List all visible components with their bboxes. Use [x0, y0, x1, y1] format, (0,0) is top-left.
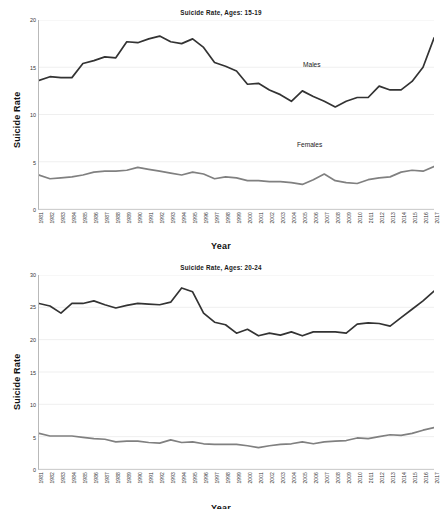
- x-tick-label: 1987: [104, 472, 110, 484]
- x-axis-ticks: 1981198219831984198519861987198819891990…: [38, 472, 434, 506]
- y-tick-label: 0: [2, 207, 36, 213]
- x-tick-label: 1984: [71, 472, 77, 484]
- series-line-males: [39, 36, 434, 107]
- y-tick-label: 20: [2, 17, 36, 23]
- x-tick-label: 1981: [38, 472, 44, 484]
- series-line-females: [39, 166, 434, 184]
- x-axis-label: Year: [0, 241, 442, 251]
- x-tick-label: 2016: [423, 212, 429, 224]
- x-tick-label: 2013: [390, 472, 396, 484]
- x-tick-label: 1991: [148, 472, 154, 484]
- x-tick-label: 1995: [192, 472, 198, 484]
- x-tick-label: 1985: [82, 472, 88, 484]
- x-tick-label: 2006: [313, 472, 319, 484]
- y-tick-label: 30: [2, 272, 36, 278]
- x-tick-label: 1994: [181, 472, 187, 484]
- x-tick-label: 1989: [126, 212, 132, 224]
- y-tick-label: 0: [2, 467, 36, 473]
- x-tick-label: 2015: [412, 212, 418, 224]
- x-tick-label: 2010: [357, 472, 363, 484]
- x-tick-label: 2013: [390, 212, 396, 224]
- x-tick-label: 1992: [159, 472, 165, 484]
- figure-page: Suicide Rate, Ages: 15-19 Suicide Rate 0…: [0, 0, 442, 509]
- series-label-males: Males: [303, 61, 321, 68]
- x-tick-label: 1991: [148, 212, 154, 224]
- x-tick-label: 1993: [170, 212, 176, 224]
- x-tick-label: 1983: [60, 472, 66, 484]
- x-tick-label: 1998: [225, 472, 231, 484]
- x-tick-label: 2007: [324, 212, 330, 224]
- x-tick-label: 1986: [93, 212, 99, 224]
- plot-area: [38, 20, 434, 210]
- y-axis-ticks: 05101520: [0, 20, 36, 210]
- x-tick-label: 2009: [346, 472, 352, 484]
- x-tick-label: 1995: [192, 212, 198, 224]
- line-chart-svg: [39, 20, 434, 209]
- x-tick-label: 2012: [379, 472, 385, 484]
- x-tick-label: 2001: [258, 212, 264, 224]
- series-label-females: Females: [297, 141, 322, 148]
- x-tick-label: 1985: [82, 212, 88, 224]
- x-tick-label: 2014: [401, 212, 407, 224]
- x-tick-label: 2008: [335, 472, 341, 484]
- plot-frame: [38, 20, 434, 210]
- x-tick-label: 2002: [269, 212, 275, 224]
- x-tick-label: 2003: [280, 212, 286, 224]
- x-tick-label: 2000: [247, 472, 253, 484]
- x-tick-label: 1994: [181, 212, 187, 224]
- x-tick-label: 2009: [346, 212, 352, 224]
- chart-panel-ages-20-24: Suicide Rate, Ages: 20-24 051015202530 1…: [0, 255, 442, 509]
- x-tick-label: 1982: [49, 212, 55, 224]
- x-tick-label: 1992: [159, 212, 165, 224]
- x-tick-label: 2007: [324, 472, 330, 484]
- x-tick-label: 1987: [104, 212, 110, 224]
- x-tick-label: 1999: [236, 472, 242, 484]
- x-axis-label: Year: [0, 503, 442, 509]
- x-tick-label: 1990: [137, 472, 143, 484]
- x-tick-label: 2012: [379, 212, 385, 224]
- y-tick-label: 10: [2, 112, 36, 118]
- chart-title: Suicide Rate, Ages: 15-19: [0, 9, 442, 16]
- plot-frame: [38, 275, 434, 470]
- x-tick-label: 2016: [423, 472, 429, 484]
- x-tick-label: 2011: [368, 212, 374, 223]
- x-tick-label: 2017: [434, 472, 440, 484]
- x-tick-label: 2011: [368, 472, 374, 483]
- x-tick-label: 1997: [214, 472, 220, 484]
- y-tick-label: 15: [2, 65, 36, 71]
- x-tick-label: 1996: [203, 212, 209, 224]
- x-tick-label: 1984: [71, 212, 77, 224]
- x-tick-label: 1996: [203, 472, 209, 484]
- x-tick-label: 1990: [137, 212, 143, 224]
- x-tick-label: 1989: [126, 472, 132, 484]
- x-tick-label: 1997: [214, 212, 220, 224]
- line-chart-svg: [39, 275, 434, 469]
- y-tick-label: 25: [2, 304, 36, 310]
- x-tick-label: 2005: [302, 212, 308, 224]
- x-tick-label: 1982: [49, 472, 55, 484]
- x-tick-label: 2010: [357, 212, 363, 224]
- x-tick-label: 2001: [258, 472, 264, 484]
- x-tick-label: 1983: [60, 212, 66, 224]
- x-tick-label: 2014: [401, 472, 407, 484]
- x-tick-label: 2015: [412, 472, 418, 484]
- x-tick-label: 1999: [236, 212, 242, 224]
- series-line-females: [39, 428, 434, 448]
- x-tick-label: 2004: [291, 472, 297, 484]
- x-tick-label: 1981: [38, 212, 44, 224]
- series-line-males: [39, 288, 434, 336]
- x-tick-label: 2003: [280, 472, 286, 484]
- y-tick-label: 20: [2, 337, 36, 343]
- x-tick-label: 2017: [434, 212, 440, 224]
- x-tick-label: 1988: [115, 472, 121, 484]
- x-tick-label: 2006: [313, 212, 319, 224]
- x-tick-label: 2008: [335, 212, 341, 224]
- x-tick-label: 1986: [93, 472, 99, 484]
- chart-panel-ages-15-19: Suicide Rate, Ages: 15-19 Suicide Rate 0…: [0, 0, 442, 255]
- y-axis-label-bottom: Suicide Rate: [12, 354, 22, 410]
- x-tick-label: 2005: [302, 472, 308, 484]
- x-tick-label: 1998: [225, 212, 231, 224]
- x-tick-label: 1993: [170, 472, 176, 484]
- y-tick-label: 5: [2, 435, 36, 441]
- y-tick-label: 5: [2, 160, 36, 166]
